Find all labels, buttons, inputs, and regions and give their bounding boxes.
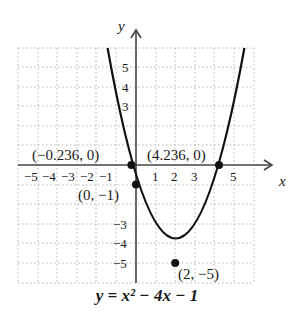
y-tick: 5	[122, 60, 129, 75]
x-tick: −1	[99, 169, 113, 184]
point-left-root	[127, 161, 135, 169]
y-axis-label: y	[116, 18, 125, 34]
x-axis-label: x	[278, 173, 286, 189]
x-tick-labels: −5 −4 −3 −2 −1 1 2 3 5	[24, 169, 237, 184]
x-tick: 1	[152, 169, 159, 184]
y-tick: −3	[113, 217, 127, 232]
x-tick: 2	[171, 169, 178, 184]
annotation-right-root: (4.236, 0)	[147, 147, 206, 164]
annotation-vertex: (2, −5)	[178, 266, 219, 283]
annotation-y-intercept: (0, −1)	[78, 187, 119, 204]
annotation-left-root: (−0.236, 0)	[32, 147, 99, 164]
y-tick: −5	[113, 256, 127, 271]
x-tick: −3	[61, 169, 75, 184]
x-tick: 5	[230, 169, 237, 184]
x-tick: 3	[191, 169, 198, 184]
point-right-root	[215, 161, 223, 169]
y-tick: 4	[122, 80, 129, 95]
y-tick: −4	[113, 236, 127, 251]
point-y-intercept	[132, 181, 140, 189]
x-tick: −2	[80, 169, 94, 184]
parabola-curve	[108, 48, 245, 239]
x-tick: −4	[42, 169, 56, 184]
equation-caption: y = x² − 4x − 1	[0, 286, 294, 306]
y-tick: 3	[122, 99, 129, 114]
x-tick: −5	[24, 169, 38, 184]
graph-canvas: −5 −4 −3 −2 −1 1 2 3 5 5 4 3 −3 −4 −5 y …	[0, 0, 294, 314]
